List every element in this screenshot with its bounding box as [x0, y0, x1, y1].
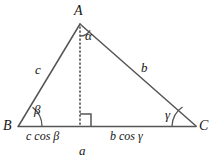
geometry-diagram: A B C c b a α β γ c cos β b cos γ: [0, 0, 212, 162]
segment-label-right-projection: b cos γ: [110, 130, 143, 142]
side-label-a: a: [79, 144, 86, 157]
side-label-b: b: [141, 61, 148, 74]
segment-label-left-projection: c cos β: [26, 130, 59, 142]
side-c-line: [19, 24, 81, 126]
angle-label-alpha: α: [85, 29, 92, 42]
right-angle-marker-icon: [80, 114, 91, 126]
vertex-label-b: B: [3, 119, 12, 133]
angle-label-gamma: γ: [165, 108, 170, 121]
side-label-c: c: [35, 63, 41, 76]
vertex-label-c: C: [199, 119, 208, 133]
vertex-label-a: A: [74, 4, 83, 18]
angle-label-beta: β: [34, 103, 40, 116]
